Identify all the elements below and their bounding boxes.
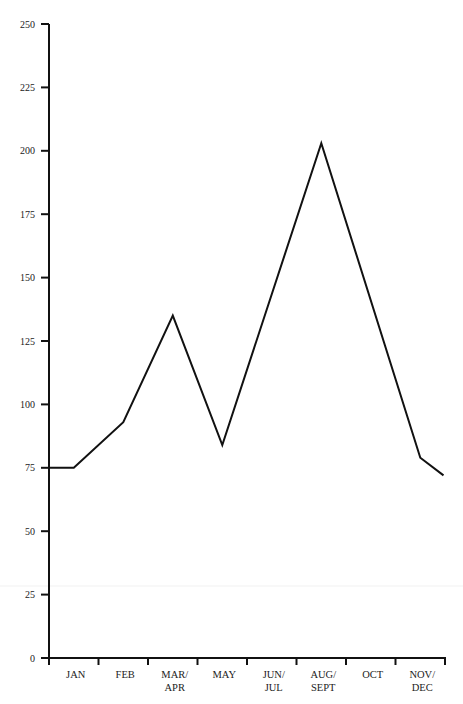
y-tick-label: 0 <box>30 653 35 664</box>
x-tick-label: OCT <box>362 669 384 680</box>
y-tick-label: 125 <box>20 336 35 347</box>
y-tick-label: 150 <box>20 272 35 283</box>
x-tick-label: AUG/SEPT <box>310 669 336 693</box>
x-tick-label: MAY <box>212 669 236 680</box>
y-tick-label: 175 <box>20 209 35 220</box>
y-tick-label: 100 <box>20 399 35 410</box>
y-tick-label: 225 <box>20 82 35 93</box>
y-tick-label: 25 <box>25 589 35 600</box>
x-tick-label: MAR/APR <box>161 669 188 693</box>
y-tick-label: 250 <box>20 19 35 30</box>
x-tick-label: NOV/DEC <box>409 669 435 693</box>
y-tick-label: 50 <box>25 526 35 537</box>
y-tick-label: 200 <box>20 145 35 156</box>
data-line <box>49 143 444 475</box>
x-tick-label: JAN <box>66 669 86 680</box>
y-tick-label: 75 <box>25 462 35 473</box>
x-axis: JANFEBMAR/APRMAYJUN/JULAUG/SEPTOCTNOV/DE… <box>48 658 446 693</box>
y-axis: 0255075100125150175200225250 <box>20 19 49 664</box>
x-tick-label: FEB <box>116 669 135 680</box>
x-tick-label: JUN/JUL <box>263 669 285 693</box>
line-chart: 0255075100125150175200225250 JANFEBMAR/A… <box>0 0 463 704</box>
